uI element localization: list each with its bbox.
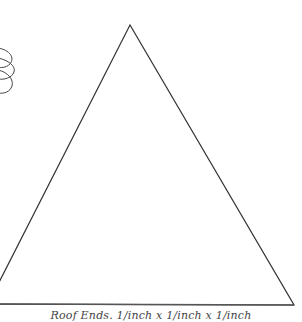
diagram-caption: Roof Ends. 1/inch x 1/inch x 1/inch <box>0 309 302 322</box>
baseline <box>0 304 294 305</box>
coil-shape <box>0 48 14 93</box>
roof-end-triangle <box>0 25 294 305</box>
